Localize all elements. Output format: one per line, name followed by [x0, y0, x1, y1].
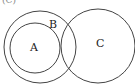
label-c: C	[96, 37, 104, 50]
venn-diagram: (C) A B C	[0, 0, 135, 84]
label-b: B	[49, 18, 57, 31]
label-a: A	[29, 41, 39, 54]
top-fragment-label: (C)	[2, 0, 16, 5]
